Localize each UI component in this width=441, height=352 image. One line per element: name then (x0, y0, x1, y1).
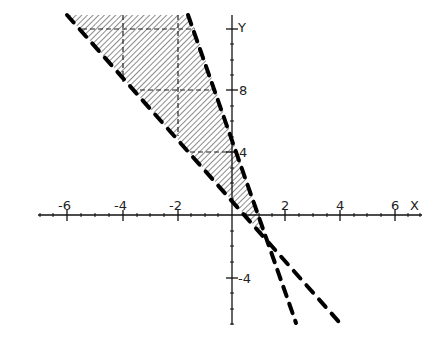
graph-figure: -6 -4 -2 2 4 6 X Y 8 4 -4 (0, 0, 441, 352)
y-tick-label: 4 (239, 145, 247, 160)
x-tick-label: -4 (114, 198, 127, 213)
x-axis (38, 210, 422, 221)
coordinate-plane: -6 -4 -2 2 4 6 X Y 8 4 -4 (0, 0, 441, 352)
x-axis-label: X (410, 198, 419, 213)
y-tick-label: -4 (238, 271, 251, 286)
y-axis-label: Y (237, 20, 246, 35)
x-tick-label: -6 (58, 198, 71, 213)
x-tick-label: 4 (336, 198, 344, 213)
y-tick-label: 8 (239, 83, 247, 98)
x-tick-label: 2 (281, 198, 289, 213)
x-tick-label: 6 (391, 198, 399, 213)
x-tick-label: -2 (169, 198, 182, 213)
